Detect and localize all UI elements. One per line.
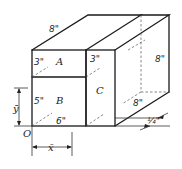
origin-label: O bbox=[23, 128, 31, 139]
dim-back-height: 8" bbox=[155, 54, 165, 64]
arrow-down-icon bbox=[17, 121, 21, 126]
dim-bottom-depth: 8" bbox=[133, 98, 143, 108]
dim-thickness: ¼" bbox=[147, 116, 160, 126]
label-part-c: C bbox=[96, 85, 104, 96]
composite-solid-diagram: 8" 3" A 3" 8" C 5" B 6" 8" ¼" O ȳ x̄ bbox=[0, 0, 182, 169]
hidden-c-diag bbox=[86, 114, 104, 126]
hidden-c-mid-diag bbox=[86, 68, 100, 77]
arrow-up-icon bbox=[17, 88, 21, 93]
arrow-right-icon bbox=[67, 145, 72, 149]
xbar-label: x̄ bbox=[48, 142, 54, 153]
hidden-ab-diag bbox=[32, 67, 48, 77]
label-part-b: B bbox=[55, 95, 63, 106]
hidden-origin-diag bbox=[32, 113, 52, 126]
dim-b-height: 5" bbox=[34, 96, 44, 106]
dim-top-depth: 8" bbox=[49, 24, 59, 34]
ybar-label: ȳ bbox=[12, 103, 19, 114]
hidden-back-diag bbox=[128, 40, 145, 50]
label-part-a: A bbox=[55, 56, 63, 67]
dim-a-height: 3" bbox=[34, 57, 44, 67]
dim-c-width: 3" bbox=[90, 54, 100, 64]
arrow-left-icon bbox=[32, 145, 37, 149]
top-face-c bbox=[115, 15, 169, 50]
dim-front-width: 6" bbox=[56, 116, 66, 126]
